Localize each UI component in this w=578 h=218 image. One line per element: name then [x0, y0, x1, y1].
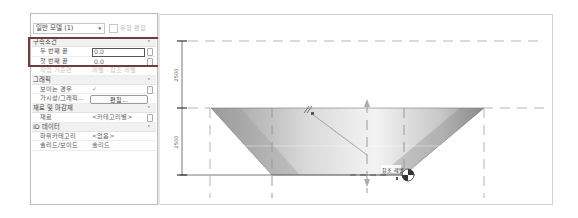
edit-type-icon [109, 24, 118, 33]
group-header-identity[interactable]: ID 데이터 ⌃ [32, 123, 156, 132]
drawing-canvas[interactable]: 2500 2500 참조 레벨 [160, 14, 553, 205]
property-row-visible: 보이는 경우 ✓ [32, 85, 156, 94]
visibility-edit-button[interactable]: 편집... [90, 95, 148, 104]
type-selector-dropdown[interactable]: 일반 모델 (1) ▾ [33, 23, 105, 34]
edit-type-label: 유형 편집 [120, 24, 146, 31]
edit-type-button[interactable]: 유형 편집 [109, 23, 146, 34]
type-selector-value: 일반 모델 (1) [36, 24, 73, 32]
property-row-visibility-graphics: 가시성/그래픽... 편집... [32, 94, 156, 103]
visible-param-button[interactable] [147, 86, 153, 94]
property-label: 보이는 경우 [40, 85, 72, 93]
property-row-material: 재료 <카테고리별> [32, 113, 156, 122]
material-value[interactable]: <카테고리별> [92, 113, 132, 121]
shape-handle-up [364, 99, 370, 107]
solid-void-value[interactable]: 솔리드 [92, 141, 110, 149]
material-param-button[interactable] [147, 114, 153, 122]
shape-handle-down [364, 179, 370, 187]
collapse-icon[interactable]: ⌃ [147, 104, 151, 112]
work-plane-value: 레벨 : 참조 레벨 [92, 66, 136, 74]
elevation-view[interactable]: 2500 2500 참조 레벨 [160, 15, 553, 206]
constraints-highlight-box [28, 37, 160, 67]
visible-checkbox[interactable]: ✓ [92, 85, 97, 93]
property-label: 작업 기준면 [40, 66, 72, 74]
collapse-icon[interactable]: ⌃ [147, 123, 151, 131]
property-row-solid-void: 솔리드/보이드 솔리드 [32, 141, 156, 150]
property-label: 가시성/그래픽... [40, 94, 84, 102]
collapse-icon[interactable]: ⌃ [147, 76, 151, 84]
group-title: 재료 및 마감재 [33, 104, 73, 111]
reference-level-label: 참조 레벨 [382, 167, 404, 174]
group-header-materials[interactable]: 재료 및 마감재 ⌃ [32, 104, 156, 113]
group-header-graphics[interactable]: 그래픽 ⌃ [32, 76, 156, 85]
subcategory-value[interactable]: <없음> [92, 132, 114, 140]
property-label: 솔리드/보이드 [40, 141, 78, 149]
group-title: 그래픽 [33, 76, 51, 83]
type-selector-row: 일반 모델 (1) ▾ 유형 편집 [33, 23, 157, 35]
level-head-icon [402, 169, 414, 181]
property-label: 재료 [40, 113, 52, 121]
chevron-down-icon: ▾ [98, 24, 101, 33]
property-label: 하위카테고리 [40, 132, 76, 140]
dimension-upper-label: 2500 [173, 69, 179, 82]
property-row-work-plane: 작업 기준면 레벨 : 참조 레벨 [32, 66, 156, 75]
property-row-subcategory: 하위카테고리 <없음> [32, 132, 156, 141]
group-title: ID 데이터 [33, 123, 60, 130]
dimension-lower-label: 2500 [173, 136, 179, 149]
